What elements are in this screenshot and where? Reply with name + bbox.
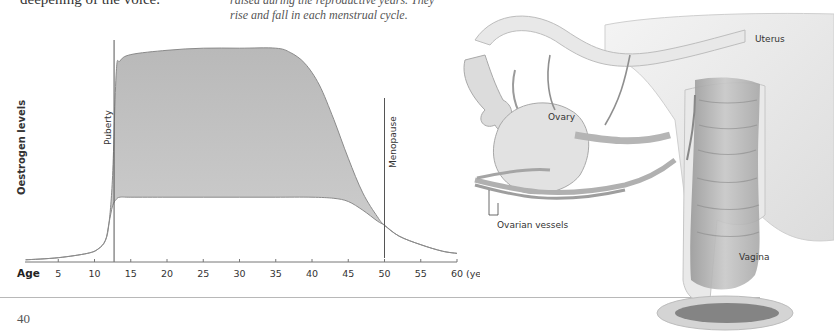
- label-uterus: Uterus: [755, 34, 785, 44]
- x-tick-label: 20: [161, 268, 173, 279]
- x-tick-label: 45: [342, 268, 354, 279]
- menopause-label: Menopause: [388, 116, 398, 168]
- blood-vessel: [548, 55, 555, 110]
- series-lower-curve: [26, 197, 457, 260]
- blood-vessel: [575, 135, 670, 141]
- label-ovary: Ovary: [548, 112, 576, 122]
- puberty-label: Puberty: [103, 110, 113, 145]
- x-tick-label: 35: [270, 268, 282, 279]
- oestrogen-chart: PubertyMenopause 51015202530354045505560…: [0, 0, 480, 300]
- reproductive-anatomy-illustration: Uterus Ovary Ovarian vessels Vagina: [455, 0, 834, 332]
- x-tick-label: 55: [415, 268, 427, 279]
- x-tick-label: 30: [233, 268, 245, 279]
- x-axis-label: Age: [17, 267, 40, 279]
- x-tick-label: 5: [55, 268, 61, 279]
- leader-line: [489, 190, 498, 215]
- label-ovarian-vessels: Ovarian vessels: [497, 220, 568, 230]
- page-number: 40: [17, 311, 30, 327]
- label-vagina: Vagina: [739, 252, 769, 262]
- x-tick-label: 40: [306, 268, 318, 279]
- x-tick-label: 10: [88, 268, 100, 279]
- x-tick-label: 25: [197, 268, 209, 279]
- y-axis-label: Oestrogen levels: [16, 100, 27, 195]
- x-tick-label: 50: [378, 268, 390, 279]
- x-tick-label: 15: [125, 268, 137, 279]
